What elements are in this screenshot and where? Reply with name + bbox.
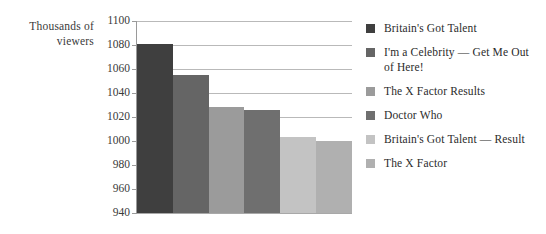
legend-swatch-icon bbox=[366, 48, 375, 57]
bar bbox=[244, 110, 280, 213]
y-axis-tick-label: 980 bbox=[90, 159, 130, 171]
bar bbox=[280, 137, 316, 213]
bar bbox=[173, 75, 209, 213]
y-axis-title: Thousands of viewers bbox=[8, 19, 94, 49]
y-axis-tick-label: 1040 bbox=[90, 87, 130, 99]
y-axis-tick-label: 960 bbox=[90, 183, 130, 195]
legend-item[interactable]: The X Factor Results bbox=[366, 84, 540, 99]
bar-series bbox=[137, 21, 352, 213]
plot-area: 110010801060104010201000980960940 bbox=[137, 21, 352, 213]
y-axis-tick-label: 1060 bbox=[90, 63, 130, 75]
gridline bbox=[137, 213, 352, 214]
legend-item[interactable]: The X Factor bbox=[366, 156, 540, 171]
legend-item[interactable]: Doctor Who bbox=[366, 108, 540, 123]
legend-item-label: Doctor Who bbox=[384, 108, 442, 123]
legend-item[interactable]: I'm a Celebrity — Get Me Out of Here! bbox=[366, 45, 540, 75]
legend-item-label: Britain's Got Talent — Result bbox=[384, 132, 525, 147]
legend-swatch-icon bbox=[366, 24, 375, 33]
bar-chart: Thousands of viewers 1100108010601040102… bbox=[0, 0, 546, 234]
legend-item-label: I'm a Celebrity — Get Me Out of Here! bbox=[384, 45, 540, 75]
legend-swatch-icon bbox=[366, 111, 375, 120]
y-axis-tick-label: 1100 bbox=[90, 15, 130, 27]
legend-item[interactable]: Britain's Got Talent — Result bbox=[366, 132, 540, 147]
legend-item[interactable]: Britain's Got Talent bbox=[366, 21, 540, 36]
legend-swatch-icon bbox=[366, 87, 375, 96]
y-axis-tick-label: 1020 bbox=[90, 111, 130, 123]
legend-item-label: The X Factor Results bbox=[384, 84, 485, 99]
y-axis-tick-label: 1000 bbox=[90, 135, 130, 147]
legend-item-label: Britain's Got Talent bbox=[384, 21, 477, 36]
y-axis-title-line-1: Thousands of bbox=[8, 19, 94, 34]
legend-swatch-icon bbox=[366, 135, 375, 144]
bar bbox=[316, 141, 352, 213]
y-axis-title-line-2: viewers bbox=[8, 34, 94, 49]
y-axis-tick-label: 940 bbox=[90, 207, 130, 219]
y-axis-tick-label: 1080 bbox=[90, 39, 130, 51]
bar bbox=[137, 44, 173, 213]
legend-item-label: The X Factor bbox=[384, 156, 447, 171]
legend: Britain's Got TalentI'm a Celebrity — Ge… bbox=[366, 21, 540, 180]
y-axis-tickmark bbox=[132, 213, 137, 214]
legend-swatch-icon bbox=[366, 159, 375, 168]
bar bbox=[209, 107, 245, 213]
